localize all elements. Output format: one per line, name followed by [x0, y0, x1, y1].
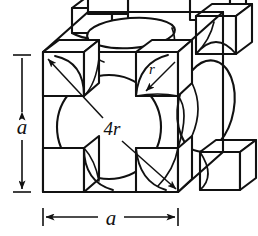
edge-length-label-vertical: a	[17, 115, 28, 139]
fcc-unit-cell-drawing: a a 4r r	[0, 0, 258, 236]
unit-cell-solid	[43, 0, 256, 192]
radius-label: r	[149, 61, 155, 77]
corner-atom-front-top-right	[136, 40, 192, 96]
corner-atom-front-top-left	[43, 40, 99, 96]
face-diagonal-label: 4r	[104, 118, 122, 139]
fcc-unit-cell-figure: a a 4r r	[0, 0, 258, 236]
edge-length-label-horizontal: a	[106, 206, 117, 230]
